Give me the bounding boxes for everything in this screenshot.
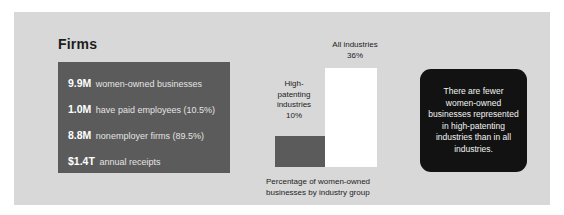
- bar-all-industries: [325, 68, 377, 167]
- firms-stats-box: 9.9M women-owned businesses 1.0M have pa…: [58, 62, 230, 173]
- bar-label-all-industries-name: All industries: [317, 40, 393, 51]
- bar-label-all-industries: All industries 36%: [317, 40, 393, 61]
- stat-label: have paid employees (10.5%): [96, 105, 215, 115]
- page-title: Firms: [58, 36, 97, 52]
- stat-value: $1.4T: [68, 155, 95, 167]
- stat-value: 1.0M: [68, 103, 91, 115]
- stat-row: 9.9M women-owned businesses: [68, 70, 230, 96]
- chart-caption: Percentage of women-owned businesses by …: [266, 177, 402, 198]
- stat-value: 9.9M: [68, 77, 91, 89]
- bar-label-high-patenting-value: 10%: [264, 111, 324, 122]
- insight-callout-text: There are fewer women-owned businesses r…: [420, 86, 527, 155]
- stat-label: annual receipts: [99, 157, 160, 167]
- stat-row: 1.0M have paid employees (10.5%): [68, 96, 230, 122]
- content-panel: Firms 9.9M women-owned businesses 1.0M h…: [14, 12, 550, 205]
- bar-label-high-patenting-line2: patenting: [264, 90, 324, 101]
- bar-high-patenting-industries: [275, 136, 325, 167]
- stat-row: $1.4T annual receipts: [68, 148, 230, 174]
- stat-row: 8.8M nonemployer firms (89.5%): [68, 122, 230, 148]
- bar-label-high-patenting-line1: High-: [264, 79, 324, 90]
- bar-chart: All industries 36% High- patenting indus…: [262, 40, 398, 200]
- stat-value: 8.8M: [68, 129, 91, 141]
- insight-callout: There are fewer women-owned businesses r…: [420, 69, 527, 172]
- bar-label-high-patenting: High- patenting industries 10%: [264, 79, 324, 121]
- stat-label: nonemployer firms (89.5%): [96, 131, 204, 141]
- bar-label-high-patenting-line3: industries: [264, 100, 324, 111]
- bar-label-all-industries-value: 36%: [317, 51, 393, 62]
- infographic-root: Firms 9.9M women-owned businesses 1.0M h…: [0, 0, 564, 215]
- stat-label: women-owned businesses: [96, 79, 202, 89]
